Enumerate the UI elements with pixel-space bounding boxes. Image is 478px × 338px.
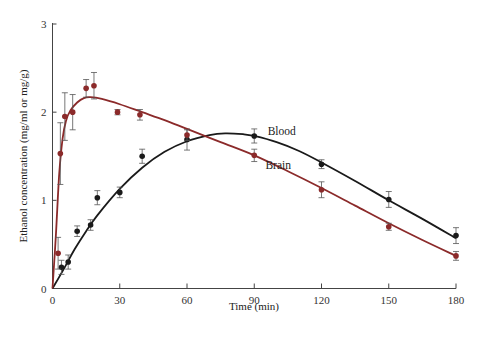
data-point bbox=[65, 259, 71, 265]
data-point bbox=[139, 153, 145, 159]
x-tick-label: 0 bbox=[50, 294, 56, 306]
x-tick-label: 150 bbox=[381, 294, 398, 306]
data-point bbox=[70, 109, 76, 115]
y-tick-label: 1 bbox=[41, 194, 47, 206]
x-axis-title: Time (min) bbox=[229, 300, 279, 313]
data-point bbox=[95, 195, 101, 201]
data-point bbox=[386, 224, 392, 230]
data-point bbox=[88, 222, 94, 228]
data-point bbox=[251, 153, 257, 159]
series-layer: BloodBrain bbox=[53, 72, 460, 288]
data-point bbox=[83, 86, 89, 92]
x-tick-label: 60 bbox=[182, 294, 194, 306]
data-point bbox=[319, 187, 325, 193]
data-point bbox=[62, 114, 68, 120]
data-point bbox=[137, 112, 143, 118]
series-brain: Brain bbox=[53, 72, 460, 288]
data-point bbox=[58, 151, 64, 157]
data-point bbox=[74, 228, 80, 234]
data-point bbox=[115, 109, 121, 115]
data-point bbox=[386, 197, 392, 203]
data-point bbox=[55, 250, 61, 256]
series-label-blood: Blood bbox=[268, 125, 296, 137]
data-point bbox=[453, 253, 459, 259]
data-point bbox=[319, 161, 325, 167]
y-tick-label: 2 bbox=[41, 106, 47, 118]
ethanol-concentration-chart: 0123 0306090120150180 Time (min) Ethanol… bbox=[0, 0, 478, 338]
y-tick-label: 0 bbox=[41, 283, 47, 295]
data-point bbox=[91, 83, 97, 89]
series-label-brain: Brain bbox=[265, 159, 291, 171]
x-tick-label: 120 bbox=[313, 294, 330, 306]
series-blood: Blood bbox=[53, 125, 460, 288]
data-point bbox=[184, 132, 190, 138]
x-tick-label: 30 bbox=[114, 294, 126, 306]
x-tick-label: 180 bbox=[448, 294, 465, 306]
data-point bbox=[453, 233, 459, 239]
fit-curve bbox=[53, 97, 457, 288]
y-tick-label: 3 bbox=[41, 18, 47, 30]
data-point bbox=[117, 190, 123, 196]
y-axis-title: Ethanol concentration (mg/ml or mg/g) bbox=[17, 69, 30, 242]
data-point bbox=[251, 133, 257, 139]
